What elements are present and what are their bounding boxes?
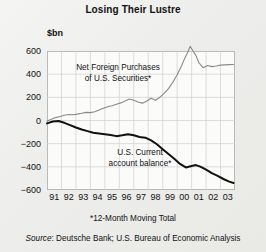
x-tick-95: 95	[107, 192, 117, 202]
annotation-cab-line2: account balance*	[85, 159, 195, 170]
chart-root: Losing Their Lustre $bn 6004002000−200−4…	[0, 0, 266, 252]
y-tick-neg200: −200	[21, 139, 41, 149]
y-tick-neg600: −600	[21, 185, 41, 195]
annotation-nfp-line2: of U.S. Securities*	[58, 74, 178, 85]
x-tick-96: 96	[122, 192, 132, 202]
x-tick-92: 92	[64, 192, 74, 202]
y-tick-400: 400	[26, 69, 41, 79]
x-tick-93: 93	[78, 192, 88, 202]
x-tick-01: 01	[194, 192, 204, 202]
y-axis-unit-label: $bn	[47, 28, 63, 38]
annotation-cab-line1: U.S. Current	[85, 148, 195, 159]
x-tick-94: 94	[93, 192, 103, 202]
y-axis-tick-labels: 6004002000−200−400−600	[0, 44, 44, 196]
x-tick-98: 98	[150, 192, 160, 202]
x-axis-tick-labels: 91929394959697989900010203	[47, 192, 235, 206]
x-tick-02: 02	[208, 192, 218, 202]
y-tick-neg400: −400	[21, 162, 41, 172]
source-text: : Deutsche Bank; U.S. Bureau of Economic…	[52, 234, 241, 243]
x-tick-99: 99	[165, 192, 175, 202]
source-line: Source: Deutsche Bank; U.S. Bureau of Ec…	[0, 234, 266, 243]
x-tick-00: 00	[179, 192, 189, 202]
annotation-current-account-balance: U.S. Current account balance*	[85, 148, 195, 169]
y-tick-200: 200	[26, 92, 41, 102]
y-tick-0: 0	[36, 116, 41, 126]
x-tick-97: 97	[136, 192, 146, 202]
x-tick-91: 91	[49, 192, 59, 202]
annotation-net-foreign-purchases: Net Foreign Purchases of U.S. Securities…	[58, 63, 178, 84]
x-tick-03: 03	[223, 192, 233, 202]
source-prefix: Source	[26, 234, 52, 243]
footnote: *12-Month Moving Total	[0, 214, 266, 223]
chart-title: Losing Their Lustre	[0, 4, 266, 15]
y-tick-600: 600	[26, 46, 41, 56]
annotation-nfp-line1: Net Foreign Purchases	[58, 63, 178, 74]
